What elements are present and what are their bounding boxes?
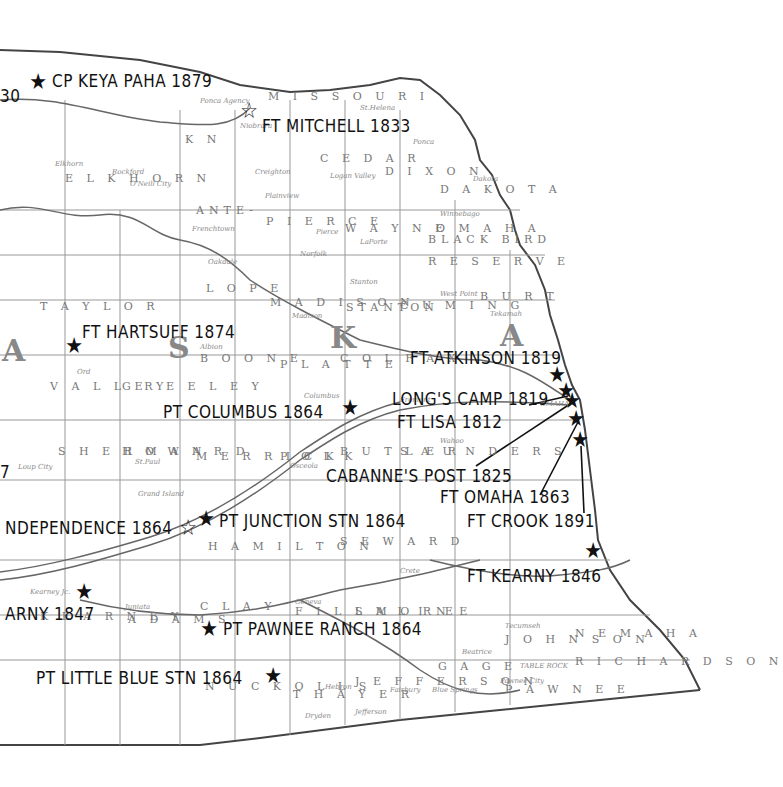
town-label: Plainview	[265, 192, 299, 200]
town-label: Norfolk	[300, 250, 327, 258]
county-label: ANTE-	[196, 204, 258, 217]
town-label: Pawnee City	[500, 677, 544, 685]
town-label: St.Paul	[135, 458, 160, 466]
fort-star-icon: ★	[341, 397, 359, 419]
town-label: Grand Island	[138, 490, 184, 498]
site-label-ft-mitchell: FT MITCHELL 1833	[262, 118, 411, 135]
county-label: BLACK BIRD	[428, 233, 551, 246]
town-label: Ord	[77, 368, 91, 376]
town-label: Juniata	[125, 603, 150, 611]
town-label: Winnebago	[440, 210, 480, 218]
town-label: Albion	[200, 343, 223, 351]
town-label: Tekamah	[490, 310, 522, 318]
town-label: O'Neill City	[130, 180, 171, 188]
town-label: Tecumseh	[505, 622, 541, 630]
town-label: Rockford	[112, 168, 144, 176]
site-label-ft-hartsuff: FT HARTSUFF 1874	[82, 324, 235, 341]
site-label-cabannes-post: CABANNE'S POST 1825	[326, 468, 512, 485]
town-label: Dakota	[473, 175, 498, 183]
site-label-independence: NDEPENDENCE 1864	[5, 520, 172, 537]
county-label: L O P E	[206, 282, 283, 295]
county-label: C L A Y	[200, 600, 276, 613]
town-label: LaPorte	[360, 238, 388, 246]
site-label-pt-columbus: PT COLUMBUS 1864	[163, 404, 324, 421]
county-label: T A Y L O R	[40, 300, 160, 313]
town-label: Logan Valley	[330, 172, 375, 180]
county-label: S E W A R D	[340, 535, 464, 548]
county-label: S A U N D E R S	[400, 445, 567, 458]
site-label-cut-30: 30	[0, 88, 20, 105]
town-label: Loup City	[18, 463, 52, 471]
site-label-pt-little-blue-stn: PT LITTLE BLUE STN 1864	[36, 670, 243, 687]
county-label: B U R T	[480, 290, 558, 303]
county-label: D A K O T A	[440, 183, 562, 196]
town-label: Dryden	[305, 712, 331, 720]
fort-star-icon: ★	[584, 540, 602, 562]
site-label-ft-omaha: FT OMAHA 1863	[440, 489, 570, 506]
town-label: Crete	[400, 567, 420, 575]
fort-star-icon: ★	[200, 618, 218, 640]
site-label-ft-lisa: FT LISA 1812	[397, 414, 502, 431]
site-label-cut-7: 7	[0, 464, 10, 481]
county-label: K N	[185, 133, 221, 146]
site-label-ft-crook: FT CROOK 1891	[467, 513, 595, 530]
site-label-pt-pawnee-ranch: PT PAWNEE RANCH 1864	[223, 621, 422, 638]
town-label: Elkhorn	[55, 160, 83, 168]
site-label-kearny-1847: ARNY 1847	[5, 606, 95, 623]
county-label: C E D A R	[320, 152, 420, 165]
county-label: G A G E	[438, 660, 517, 673]
site-label-ft-kearny-1846: FT KEARNY 1846	[467, 568, 601, 585]
site-label-pt-junction-stn: PT JUNCTION STN 1864	[219, 513, 406, 530]
fort-star-icon: ★	[197, 508, 215, 530]
county-label: D I X O N	[385, 165, 484, 178]
fort-star-icon: ★	[264, 665, 282, 687]
fort-hollow-star-icon: ☆	[240, 100, 258, 122]
town-label: Frenchtown	[192, 225, 235, 233]
county-label: M I S S O U R I	[268, 90, 429, 103]
town-label: Hebron	[325, 683, 352, 691]
town-label: Blue Springs	[432, 686, 478, 694]
county-label: N E M A H A	[575, 627, 702, 640]
state-letter: K	[330, 320, 356, 355]
town-label: Columbus	[304, 392, 340, 400]
town-label: St.Helena	[360, 104, 395, 112]
state-letter: A	[2, 333, 25, 368]
town-label: Beatrice	[462, 648, 492, 656]
town-label: TABLE ROCK	[520, 662, 568, 670]
county-label: S A L I N E	[355, 605, 472, 618]
county-label: R I C H A R D S O N	[575, 655, 783, 668]
town-label: Ponca	[413, 138, 434, 146]
fort-star-icon: ★	[571, 429, 589, 451]
fort-star-icon: ★	[75, 581, 93, 603]
town-label: Stanton	[350, 278, 378, 286]
town-label: Pierce	[316, 228, 339, 236]
town-label: Fairbury	[390, 686, 420, 694]
town-label: Jefferson	[355, 708, 387, 716]
site-label-ft-atkinson: FT ATKINSON 1819	[410, 350, 562, 367]
county-grid	[0, 100, 690, 745]
county-label: R E S E R V E	[428, 255, 570, 268]
fort-star-icon: ★	[29, 71, 47, 93]
town-label: West Point	[440, 290, 478, 298]
county-label: G R E E L E Y	[122, 380, 264, 393]
site-label-cp-keya-paha: CP KEYA PAHA 1879	[52, 73, 212, 90]
site-label-longs-camp: LONG'S CAMP 1819	[392, 391, 549, 408]
town-label: Kearney Jc.	[30, 588, 71, 596]
town-label: Creighton	[255, 168, 291, 176]
town-label: Oakdale	[208, 258, 237, 266]
fort-star-icon: ★	[65, 335, 83, 357]
town-label: Osceola	[290, 462, 318, 470]
fort-hollow-star-icon: ☆	[179, 517, 197, 539]
town-label: Geneva	[295, 598, 322, 606]
town-label: Madison	[292, 312, 322, 320]
town-label: Wahoo	[440, 437, 464, 445]
